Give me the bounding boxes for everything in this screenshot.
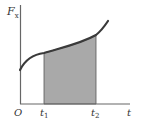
force-time-diagram: Fx O t1 t2 t (0, 0, 142, 125)
origin-label: O (14, 107, 22, 118)
t2-label: t2 (91, 107, 100, 120)
t1-label: t1 (40, 107, 49, 120)
y-axis-label: Fx (6, 5, 19, 20)
x-axis-label: t (127, 107, 132, 118)
